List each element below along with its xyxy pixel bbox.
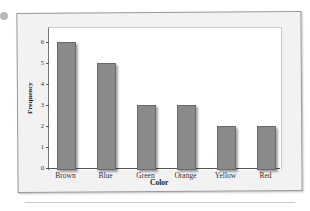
y-tick-label: 2 — [34, 122, 44, 129]
x-tick-label: Orange — [166, 171, 206, 180]
y-axis-title: Frequency — [26, 78, 34, 118]
x-tick-label: Blue — [86, 171, 126, 180]
x-tick-label: Red — [246, 171, 286, 180]
y-tick-mark — [46, 126, 49, 127]
y-tick-mark — [46, 84, 49, 85]
bar-orange — [177, 105, 196, 170]
bullet-dot — [0, 12, 8, 20]
x-tick-label: Brown — [46, 171, 86, 180]
bar-green — [137, 105, 156, 170]
y-tick-mark — [46, 105, 49, 106]
x-tick-label: Yellow — [206, 171, 246, 180]
bar-red — [257, 126, 276, 170]
y-tick-label: 5 — [34, 59, 44, 66]
bar-brown — [57, 42, 76, 170]
y-tick-mark — [46, 147, 49, 148]
y-tick-label: 3 — [34, 101, 44, 108]
bar-yellow — [217, 126, 236, 170]
plot-area — [48, 27, 282, 170]
y-tick-label: 1 — [34, 143, 44, 150]
y-tick-label: 0 — [34, 164, 44, 171]
y-tick-label: 6 — [34, 38, 44, 45]
y-tick-mark — [46, 42, 49, 43]
divider — [25, 202, 295, 203]
y-tick-mark — [46, 63, 49, 64]
y-tick-label: 4 — [34, 80, 44, 87]
y-tick-mark — [46, 168, 49, 169]
bar-blue — [97, 63, 116, 170]
x-axis-title: Color — [150, 178, 168, 187]
x-axis-line — [48, 168, 280, 169]
